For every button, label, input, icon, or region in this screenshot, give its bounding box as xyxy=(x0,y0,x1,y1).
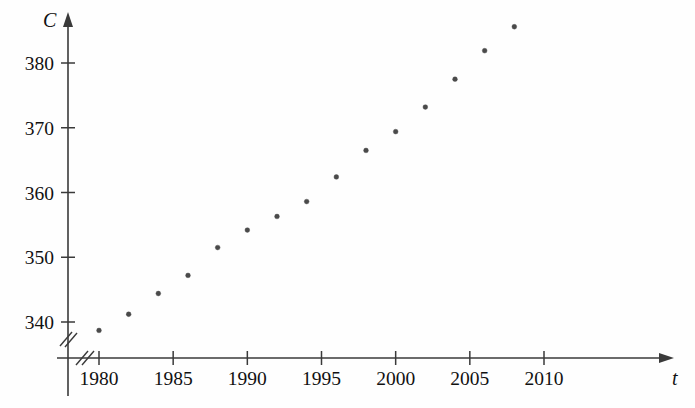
axis-break-slash xyxy=(60,332,72,346)
x-tick-label: 2010 xyxy=(525,368,564,389)
scatter-plot-figure: 340350360370380 198019851990199520002005… xyxy=(0,0,695,408)
data-points-group xyxy=(97,24,517,332)
y-tick-label: 350 xyxy=(25,247,54,268)
x-axis-label: t xyxy=(672,367,678,389)
data-point xyxy=(364,148,369,153)
data-point xyxy=(275,214,280,219)
data-point xyxy=(423,105,428,110)
data-point xyxy=(482,48,487,53)
x-axis-arrow-icon xyxy=(659,353,674,363)
data-point xyxy=(215,245,220,250)
x-tick-label: 1980 xyxy=(80,368,119,389)
data-point xyxy=(126,312,131,317)
data-point xyxy=(453,77,458,82)
y-tick-label: 360 xyxy=(25,183,54,204)
y-axis-arrow-icon xyxy=(63,12,73,27)
x-tick-label: 2005 xyxy=(450,368,489,389)
axes-group xyxy=(57,12,674,396)
data-point xyxy=(186,273,191,278)
y-axis-label: C xyxy=(43,9,57,31)
data-point xyxy=(304,199,309,204)
axis-break-marks xyxy=(60,332,94,365)
data-point xyxy=(156,291,161,296)
axis-break-slash xyxy=(65,333,77,347)
x-tick-label: 1990 xyxy=(228,368,267,389)
data-point xyxy=(334,175,339,180)
data-point xyxy=(245,228,250,233)
y-tick-label: 380 xyxy=(25,53,54,74)
data-point xyxy=(97,328,102,333)
x-axis-ticks: 1980198519901995200020052010 xyxy=(80,351,564,389)
x-tick-label: 1985 xyxy=(154,368,193,389)
y-tick-label: 340 xyxy=(25,312,54,333)
plot-canvas: 340350360370380 198019851990199520002005… xyxy=(0,0,695,408)
x-tick-label: 2000 xyxy=(376,368,415,389)
x-tick-label: 1995 xyxy=(302,368,341,389)
data-point xyxy=(393,129,398,134)
data-point xyxy=(512,24,517,29)
y-tick-label: 370 xyxy=(25,118,54,139)
